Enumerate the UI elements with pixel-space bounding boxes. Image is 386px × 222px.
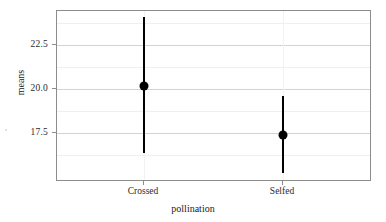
x-axis-title: pollination	[0, 203, 386, 214]
ytick-mark-22.5	[52, 44, 56, 45]
ytick-label-22.5: 22.5	[10, 39, 48, 49]
data-point-selfed	[279, 131, 288, 140]
data-point-crossed	[140, 82, 149, 91]
gridline-major-22.5	[57, 45, 370, 46]
xtick-label-selfed: Selfed	[242, 186, 322, 196]
xtick-mark-crossed	[143, 181, 144, 185]
gridline-minor-21.25	[57, 67, 370, 68]
xtick-label-crossed: Crossed	[103, 186, 183, 196]
gridline-major-20.0	[57, 89, 370, 90]
xtick-mark-selfed	[282, 181, 283, 185]
gridline-minor-23.75	[57, 23, 370, 24]
ytick-mark-20.0	[52, 88, 56, 89]
chart-container: 22.5 20.0 17.5 Crossed Selfed pollinatio…	[0, 0, 386, 222]
gridline-minor-16.25	[57, 155, 370, 156]
gridline-major-17.5	[57, 133, 370, 134]
page-speck	[5, 129, 7, 131]
y-axis-title: means	[15, 53, 26, 113]
ytick-label-17.5: 17.5	[10, 127, 48, 137]
gridline-minor-18.75	[57, 111, 370, 112]
ytick-mark-17.5	[52, 132, 56, 133]
plot-panel	[56, 10, 371, 181]
